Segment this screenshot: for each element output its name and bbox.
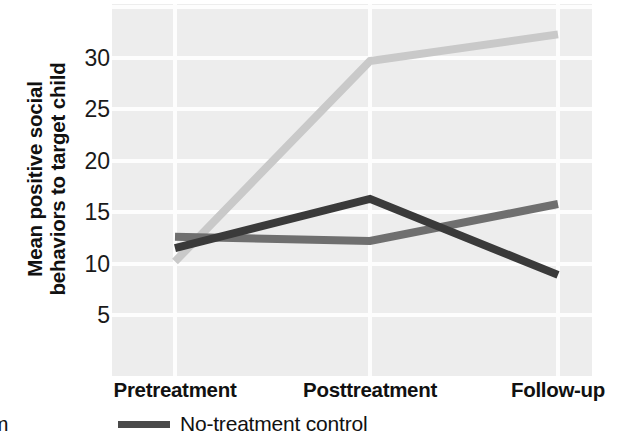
y-tick-label-5: 5 bbox=[62, 302, 110, 329]
legend-label-no-treatment-control: No-treatment control bbox=[180, 412, 367, 436]
line-chart-figure: Mean positive social behaviors to target… bbox=[0, 0, 621, 444]
x-axis-tick-labels: PretreatmentPosttreatmentFollow-up bbox=[112, 378, 592, 408]
y-tick-label-15: 15 bbox=[62, 199, 110, 226]
series-lines bbox=[112, 4, 592, 376]
y-axis-tick-labels: 51015202530 bbox=[62, 0, 110, 380]
y-tick-label-25: 25 bbox=[62, 96, 110, 123]
series-line-2 bbox=[175, 199, 558, 275]
y-tick-label-20: 20 bbox=[62, 147, 110, 174]
legend-item-no-treatment-control: No-treatment control bbox=[118, 412, 367, 436]
legend-item-behavioral-film: ral film bbox=[0, 412, 8, 436]
x-tick-label-follow-up: Follow-up bbox=[511, 378, 605, 402]
y-tick-label-30: 30 bbox=[62, 45, 110, 72]
chart-legend: ral film No-treatment control bbox=[0, 408, 621, 444]
x-tick-label-posttreatment: Posttreatment bbox=[303, 378, 437, 402]
series-line-0 bbox=[175, 34, 558, 261]
plot-area bbox=[112, 4, 592, 376]
legend-swatch-icon bbox=[118, 421, 170, 428]
x-tick-label-pretreatment: Pretreatment bbox=[114, 378, 237, 402]
y-axis-title-line-1: Mean positive social bbox=[24, 81, 47, 276]
legend-label-behavioral-film: ral film bbox=[0, 412, 8, 436]
y-tick-label-10: 10 bbox=[62, 250, 110, 277]
